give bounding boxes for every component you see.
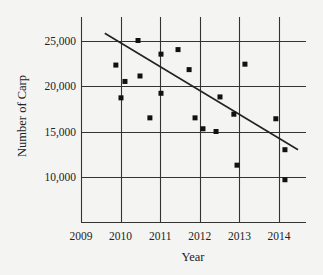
data-point-square xyxy=(193,115,198,120)
data-point-square xyxy=(282,147,287,152)
data-point-square xyxy=(136,38,141,43)
data-point-square xyxy=(231,112,236,117)
data-point-square xyxy=(113,63,118,68)
data-point-square xyxy=(122,79,127,84)
data-point-square xyxy=(187,67,192,72)
data-point-square xyxy=(217,94,222,99)
data-point-square xyxy=(282,177,287,182)
x-tick-label: 2011 xyxy=(149,230,172,242)
data-point-square xyxy=(158,52,163,57)
y-tick-label: 15,000 xyxy=(44,126,76,139)
data-point-square xyxy=(138,73,143,78)
y-tick-label: 10,000 xyxy=(44,171,76,184)
data-point-square xyxy=(118,95,123,100)
y-tick-labels: 10,00015,00020,00025,000 xyxy=(44,35,76,185)
y-axis-label: Number of Carp xyxy=(15,75,29,157)
data-point-square xyxy=(273,116,278,121)
data-point-square xyxy=(158,91,163,96)
scatter-chart: 200920102011201220132014 10,00015,00020,… xyxy=(0,0,323,275)
data-point-square xyxy=(214,129,219,134)
x-tick-labels: 200920102011201220132014 xyxy=(70,230,291,242)
x-tick-label: 2009 xyxy=(70,230,93,242)
data-point-square xyxy=(200,126,205,131)
data-point-square xyxy=(176,47,181,52)
x-tick-label: 2013 xyxy=(228,230,251,242)
y-tick-label: 20,000 xyxy=(44,80,76,93)
x-tick-label: 2014 xyxy=(268,230,291,242)
x-tick-label: 2010 xyxy=(109,230,132,242)
data-point-square xyxy=(235,163,240,168)
x-axis-label: Year xyxy=(181,250,205,264)
y-tick-label: 25,000 xyxy=(44,35,76,48)
data-point-square xyxy=(147,115,152,120)
x-tick-label: 2012 xyxy=(188,230,211,242)
data-point-square xyxy=(242,62,247,67)
